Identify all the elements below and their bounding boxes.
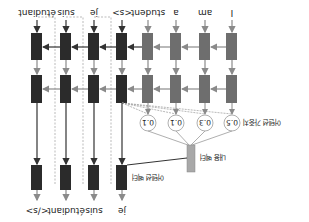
decoder-cell	[60, 33, 71, 60]
output-arrows	[37, 190, 122, 200]
encoder-input-word: student	[130, 8, 165, 18]
decoder-cell	[88, 33, 99, 60]
attention-vectors	[31, 165, 127, 190]
context-to-attention-line	[127, 158, 187, 165]
output-word-labels: je suis étudiant </s>	[26, 206, 127, 216]
encoder-cell	[199, 75, 210, 103]
decoder-cell	[31, 75, 42, 103]
decoder-to-output-arrows	[37, 103, 122, 164]
decoder-output-word: </s>	[26, 206, 49, 216]
decoder-output-word: étudiant	[47, 206, 85, 216]
attention-weights: 0.5 0.3 0.1 0.1 어텐션 가중치	[140, 115, 281, 131]
attention-weight-value: 0.5	[226, 118, 238, 127]
attention-vector-cell	[60, 165, 71, 190]
attention-score-lines	[122, 103, 232, 114]
encoder-cell	[142, 33, 153, 60]
decoder-output-word: je	[118, 206, 128, 216]
decoder-cell	[116, 33, 127, 60]
weight-to-context-lines	[148, 131, 232, 145]
decoder-output-word: suis	[85, 206, 103, 216]
decoder-cell	[60, 75, 71, 103]
attention-weight-value: 0.1	[142, 118, 154, 127]
decoder-cell	[88, 75, 99, 103]
feedback-lines	[37, 17, 111, 184]
attention-weights-label: 어텐션 가중치	[243, 118, 281, 127]
encoder-input-word: am	[198, 8, 212, 18]
attention-vector-cell	[116, 165, 127, 190]
attention-vector-cell	[31, 165, 42, 190]
encoder-cell	[170, 75, 181, 103]
encoder-input-word: a	[173, 8, 179, 18]
context-vector	[187, 145, 195, 172]
input-arrows	[37, 20, 232, 32]
attention-weight-value: 0.3	[199, 118, 211, 127]
encoder-cell	[226, 33, 237, 60]
attention-vector-label: 어텐션 벡터	[132, 173, 164, 182]
encoder-to-weight-arrows	[148, 103, 232, 114]
encoder-cell	[226, 75, 237, 103]
encoder-input-word: I	[231, 8, 234, 18]
decoder-cell	[116, 75, 127, 103]
decoder-input-word: suis	[57, 8, 75, 18]
encoder-cell	[142, 75, 153, 103]
decoder-input-word: <s>	[112, 8, 132, 18]
decoder-cell	[31, 33, 42, 60]
attention-vector-cell	[88, 165, 99, 190]
decoder-input-word: étudiant	[18, 8, 56, 18]
layer-arrows	[37, 60, 232, 74]
input-word-labels: I am a student <s> je suis étudiant	[18, 8, 234, 18]
diagram-canvas: I am a student <s> je suis étudiant	[0, 0, 309, 222]
decoder-input-word: je	[90, 8, 100, 18]
attention-weight-value: 0.1	[170, 118, 182, 127]
encoder-cell	[170, 33, 181, 60]
seq2seq-attention-diagram: I am a student <s> je suis étudiant	[0, 0, 309, 222]
encoder-cell	[199, 33, 210, 60]
context-vector-label: 내용 벡터	[200, 153, 226, 162]
